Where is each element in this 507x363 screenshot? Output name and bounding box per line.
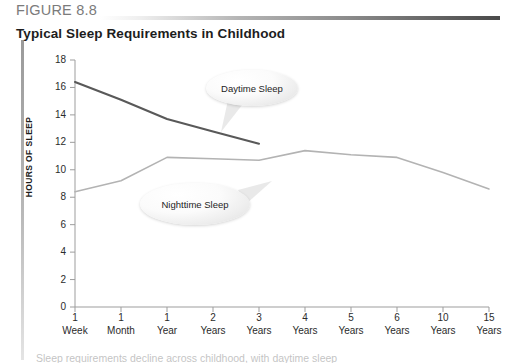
callout-daytime-sleep: Daytime Sleep (206, 70, 298, 106)
callout-nighttime-label: Nighttime Sleep (161, 199, 228, 210)
callout-daytime-label: Daytime Sleep (221, 83, 283, 94)
callout-nighttime-sleep: Nighttime Sleep (140, 183, 250, 225)
series-line-nighttime-sleep (75, 151, 489, 192)
figure-caption-partial: Sleep requirements decline across childh… (36, 352, 486, 363)
chart-svg (0, 0, 507, 363)
chart-area: HOURS OF SLEEP 181614121086420 1Week1Mon… (0, 0, 507, 363)
